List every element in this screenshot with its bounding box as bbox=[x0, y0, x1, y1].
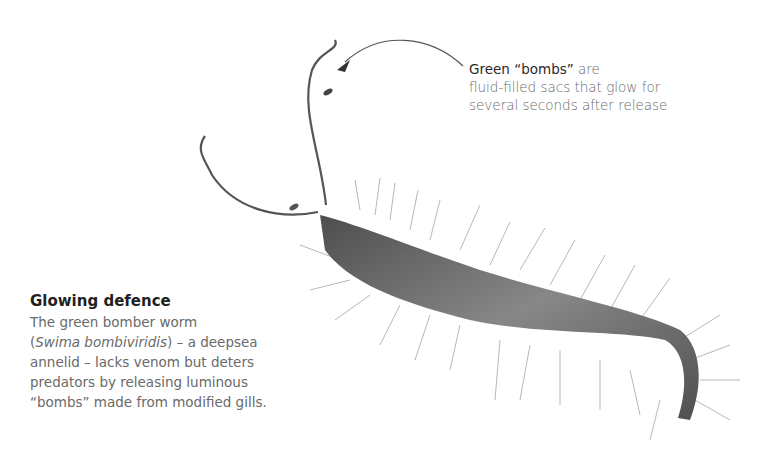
caption-line4: predators by releasing luminous bbox=[30, 372, 330, 392]
callout-line3: several seconds after release bbox=[469, 96, 759, 114]
worm-body bbox=[320, 215, 699, 420]
species-name: Swima bombiviridis bbox=[35, 334, 167, 350]
bombs-callout: Green “bombs” are fluid-filled sacs that… bbox=[469, 60, 759, 114]
antenna-icon bbox=[201, 40, 336, 215]
glowing-defence-caption: Glowing defence The green bomber worm (S… bbox=[30, 290, 330, 412]
caption-line2: (Swima bombiviridis) – a deepsea bbox=[30, 332, 330, 352]
callout-arrow-icon bbox=[337, 40, 463, 72]
bomb-icon bbox=[288, 202, 299, 211]
callout-line1: are bbox=[574, 61, 600, 77]
caption-line2-rest: ) – a deepsea bbox=[167, 334, 258, 350]
caption-line5: “bombs” made from modified gills. bbox=[30, 392, 330, 412]
caption-title: Glowing defence bbox=[30, 290, 330, 312]
caption-line1: The green bomber worm bbox=[30, 312, 330, 332]
caption-line3: annelid – lacks venom but deters bbox=[30, 352, 330, 372]
bomb-icon bbox=[322, 87, 333, 96]
callout-line2: fluid-filled sacs that glow for bbox=[469, 78, 759, 96]
callout-highlight: Green “bombs” bbox=[469, 61, 574, 77]
